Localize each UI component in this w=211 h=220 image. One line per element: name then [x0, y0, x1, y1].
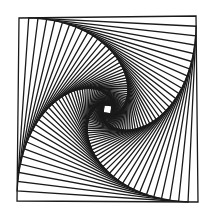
spiral-square	[55, 56, 159, 163]
spiral-square	[49, 49, 166, 170]
nested-squares-spiral-graphic	[0, 0, 211, 220]
spiral-square	[59, 59, 157, 160]
spiral-square	[39, 39, 176, 180]
spiral-square	[103, 105, 112, 114]
spiral-figure	[0, 0, 211, 220]
